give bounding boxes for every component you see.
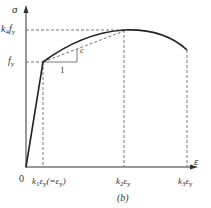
y-axis-arrow-icon [24, 5, 29, 13]
stress-strain-diagram: σ k4fy fy 1 c 0 k1εy(=εy) k2εy k3εy ε (b… [0, 0, 211, 208]
x-tick-k3ey: k3εy [178, 177, 193, 188]
slope-run-label: 1 [60, 66, 65, 75]
y-tick-fy: fy [8, 56, 14, 68]
y-tick-k4fy: k4fy [1, 24, 15, 36]
x-axis [26, 165, 198, 170]
y-axis [24, 5, 29, 168]
x-tick-k2ey: k2εy [116, 177, 131, 188]
slope-rise-label: c [80, 46, 84, 55]
x-axis-label: ε [194, 156, 198, 167]
y-axis-label: σ [12, 4, 17, 15]
reference-lines [26, 30, 187, 167]
figure-caption: (b) [117, 193, 129, 203]
stress-strain-curve [26, 30, 187, 167]
origin-label: 0 [19, 174, 24, 184]
x-tick-k1ey: k1εy(=εy) [32, 177, 66, 188]
